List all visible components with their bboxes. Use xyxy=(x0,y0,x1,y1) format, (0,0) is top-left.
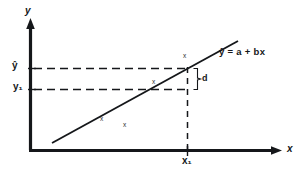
regression-figure: y x ŷ y₁ x₁ ŷ = a + bx d x x x x xyxy=(0,0,300,175)
y-axis xyxy=(26,18,35,150)
data-point-marker: x xyxy=(123,122,126,129)
residual-bracket xyxy=(194,69,201,90)
residual-label: d xyxy=(202,74,208,83)
x-axis xyxy=(29,146,282,155)
x-axis-label: x xyxy=(287,144,293,154)
equation-label: ŷ = a + bx xyxy=(219,47,265,57)
data-point-marker: x xyxy=(100,116,103,123)
x-tick-label-x1: x₁ xyxy=(182,156,192,166)
y-axis-label: y xyxy=(25,6,31,16)
y-tick-label-yhat: ŷ xyxy=(12,61,18,71)
figure-canvas xyxy=(0,0,300,175)
data-point-marker: x xyxy=(183,53,186,60)
y-tick-label-y1: y₁ xyxy=(13,82,23,92)
data-point-marker: x xyxy=(152,79,155,86)
regression-line xyxy=(52,41,238,143)
